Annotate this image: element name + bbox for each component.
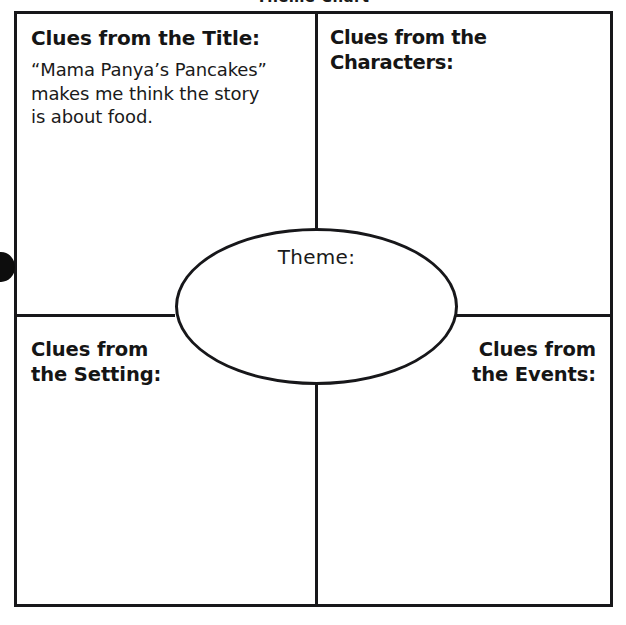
theme-ellipse[interactable]: Theme: — [175, 228, 458, 385]
quadrant-title-heading: Clues from the Title: — [31, 26, 301, 52]
theme-chart-organizer: Clues from the Title: “Mama Panya’s Panc… — [14, 11, 613, 607]
theme-label: Theme: — [178, 245, 455, 269]
page-edge-artifact — [0, 252, 15, 282]
quadrant-title-response[interactable]: “Mama Panya’s Pancakes” makes me think t… — [31, 58, 301, 130]
quadrant-characters-heading: Clues from the Characters: — [330, 26, 600, 76]
page-title: Theme Chart — [0, 0, 626, 6]
